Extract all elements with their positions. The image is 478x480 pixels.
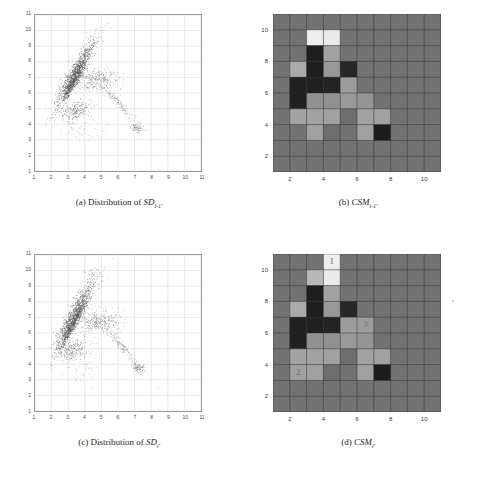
x-tick-label: 6 <box>111 415 125 420</box>
y-tick-label: 6 <box>252 330 268 336</box>
heatmap-cell <box>323 46 340 62</box>
heatmap-cell <box>357 93 374 109</box>
heatmap-cell <box>290 93 307 109</box>
y-tick-label: 1 <box>17 409 31 414</box>
panel-b-axes <box>273 14 441 172</box>
panel-a-plot-area: 12345678910111234567891011 <box>34 14 202 172</box>
heatmap-cell <box>340 61 357 77</box>
y-tick-label: 6 <box>17 90 31 95</box>
y-tick-label: 5 <box>17 346 31 351</box>
x-tick-label: 1 <box>27 415 41 420</box>
heatmap-cell <box>307 125 324 141</box>
heatmap-cell <box>307 77 324 93</box>
y-tick-label: 11 <box>17 251 31 256</box>
panel-b-caption: (b) CSMi-1. <box>239 197 478 209</box>
panel-a-caption: (a) Distribution of SDi-1. <box>0 197 239 209</box>
panel-a-caption-symbol: SD <box>143 197 154 207</box>
heatmap-cell <box>323 30 340 46</box>
y-tick-label: 10 <box>252 267 268 273</box>
y-tick-label: 4 <box>252 122 268 128</box>
panel-b-heatmap-csm-i-minus-1: 246810246810 (b) CSMi-1. <box>239 0 478 240</box>
heatmap-cell <box>323 301 340 317</box>
heatmap-cell <box>340 333 357 349</box>
heatmap-cell <box>290 349 307 365</box>
y-tick-label: 1 <box>17 169 31 174</box>
panel-c-caption-text: Distribution of <box>90 437 143 447</box>
x-tick-label: 2 <box>282 176 298 182</box>
x-tick-label: 6 <box>111 175 125 180</box>
panel-c-caption: (c) Distribution of SDi. <box>0 437 239 449</box>
heatmap-cell <box>323 365 340 381</box>
heatmap-cell <box>307 61 324 77</box>
panel-b-caption-period: . <box>376 197 378 207</box>
heatmap-cell <box>340 301 357 317</box>
x-tick-label: 7 <box>128 415 142 420</box>
heatmap-cell <box>290 317 307 333</box>
y-tick-label: 4 <box>17 362 31 367</box>
heatmap-cell <box>340 317 357 333</box>
x-tick-label: 8 <box>145 175 159 180</box>
heatmap-cell <box>323 349 340 365</box>
heatmap-cell <box>307 30 324 46</box>
y-tick-label: 10 <box>252 27 268 33</box>
heatmap-cell <box>357 365 374 381</box>
x-tick-label: 1 <box>27 175 41 180</box>
x-tick-label: 9 <box>161 415 175 420</box>
x-tick-label: 11 <box>195 415 209 420</box>
heatmap-cell <box>307 46 324 62</box>
heatmap-cell <box>323 93 340 109</box>
y-tick-label: 2 <box>252 153 268 159</box>
panel-d-axes: 123 <box>273 254 441 412</box>
x-tick-label: 2 <box>44 175 58 180</box>
heatmap-cell <box>340 109 357 125</box>
y-tick-label: 2 <box>17 153 31 158</box>
heatmap-cell <box>340 77 357 93</box>
heatmap-cell <box>307 365 324 381</box>
y-tick-label: 10 <box>17 267 31 272</box>
y-tick-label: 3 <box>17 137 31 142</box>
heatmap-cell <box>307 333 324 349</box>
heatmap-cell <box>374 109 391 125</box>
x-tick-label: 11 <box>195 175 209 180</box>
heatmap-cell <box>323 125 340 141</box>
panel-c-scatter-svg <box>35 255 201 411</box>
y-tick-label: 3 <box>17 377 31 382</box>
heatmap-cell <box>323 317 340 333</box>
heatmap-cell <box>307 317 324 333</box>
y-tick-label: 11 <box>17 11 31 16</box>
x-tick-label: 3 <box>61 415 75 420</box>
heatmap-cell <box>290 77 307 93</box>
heatmap-cell <box>290 61 307 77</box>
x-tick-label: 4 <box>77 175 91 180</box>
x-tick-label: 10 <box>178 415 192 420</box>
heatmap-cell <box>307 349 324 365</box>
panel-a-scatter-svg <box>35 15 201 171</box>
heatmap-cell <box>290 333 307 349</box>
x-tick-label: 4 <box>315 416 331 422</box>
heatmap-cell <box>307 270 324 286</box>
heatmap-cluster-label: 3 <box>363 319 368 329</box>
y-tick-label: 4 <box>17 122 31 127</box>
x-tick-label: 6 <box>349 176 365 182</box>
x-tick-label: 2 <box>44 415 58 420</box>
y-tick-label: 9 <box>17 283 31 288</box>
x-tick-label: 4 <box>77 415 91 420</box>
y-tick-label: 4 <box>252 362 268 368</box>
heatmap-cell <box>323 286 340 302</box>
panel-a-caption-tag: (a) <box>76 197 86 207</box>
heatmap-cell <box>340 93 357 109</box>
heatmap-cell <box>307 93 324 109</box>
panel-d-heatmap-svg: 123 <box>273 254 441 412</box>
y-tick-label: 7 <box>17 74 31 79</box>
panel-d-caption-symbol: CSM <box>354 437 372 447</box>
panel-d-caption: (d) CSMi. <box>239 437 478 449</box>
x-tick-label: 8 <box>383 176 399 182</box>
panel-b-heatmap-svg <box>273 14 441 172</box>
panel-b-caption-symbol: CSM <box>351 197 369 207</box>
panel-a-scatter-sd-i-minus-1: 12345678910111234567891011 (a) Distribut… <box>0 0 239 240</box>
panel-d-plot-area: 123 246810246810 <box>273 254 441 412</box>
heatmap-cell <box>357 109 374 125</box>
heatmap-cluster-label: 1 <box>330 256 335 266</box>
x-tick-label: 10 <box>416 416 432 422</box>
panel-c-plot-area: 12345678910111234567891011 <box>34 254 202 412</box>
